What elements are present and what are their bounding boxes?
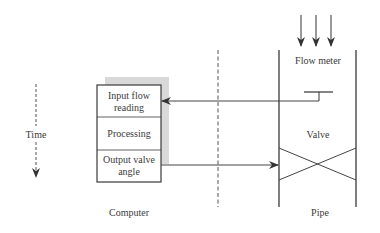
flow-arrows bbox=[301, 15, 331, 46]
computer-block: Input flow reading Processing Output val… bbox=[97, 77, 169, 218]
flow-control-diagram: Time Input flow reading Processing Outpu… bbox=[0, 0, 380, 233]
valve-label: Valve bbox=[307, 129, 330, 140]
step-label: Processing bbox=[107, 128, 150, 139]
step-processing: Processing bbox=[107, 128, 150, 139]
step-label: Input flow bbox=[108, 90, 151, 101]
computer-label: Computer bbox=[109, 207, 150, 218]
flow-meter-sensor-icon bbox=[304, 92, 333, 101]
step-label: angle bbox=[118, 166, 140, 177]
flow-meter-label: Flow meter bbox=[295, 55, 341, 66]
valve-icon bbox=[279, 148, 356, 180]
time-label: Time bbox=[26, 129, 47, 140]
step-label: Output valve bbox=[103, 154, 155, 165]
pipe-label: Pipe bbox=[311, 207, 329, 218]
pipe: Flow meter Valve Pipe bbox=[279, 15, 356, 218]
time-axis: Time bbox=[26, 84, 47, 177]
step-label: reading bbox=[114, 102, 144, 113]
